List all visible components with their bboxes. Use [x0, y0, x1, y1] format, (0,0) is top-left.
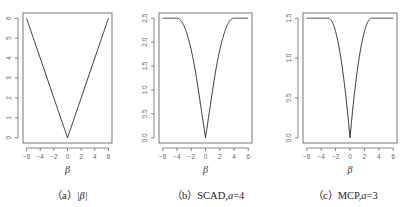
y-tick-label: 2.5	[141, 13, 148, 22]
caption-c-label: （c）MCP,	[313, 190, 361, 201]
x-tick-label: 4	[377, 153, 381, 160]
x-tick-label: 6	[391, 153, 395, 160]
y-tick-label: 1	[5, 116, 12, 120]
y-tick-label: 1.0	[285, 53, 292, 62]
y-tick-label: 2.0	[141, 37, 148, 46]
x-tick-label: 2	[363, 153, 367, 160]
caption-a: （a）|β|	[52, 187, 88, 202]
y-tick-label: 0.5	[285, 93, 292, 102]
x-tick-label: −4	[36, 153, 44, 160]
caption-c: （c）MCP,a=3	[313, 187, 378, 202]
chart-panel-1: −6−4−202460123456β	[5, 13, 112, 175]
x-tick-label: 2	[79, 153, 83, 160]
y-tick-label: 2	[5, 96, 12, 100]
penalty-function-plots: −6−4−202460123456β−6−4−202460.00.51.01.5…	[0, 0, 403, 207]
x-tick-label: −2	[188, 153, 196, 160]
y-tick-label: 0.0	[285, 133, 292, 142]
x-tick-label: 2	[218, 153, 222, 160]
x-tick-label: 4	[232, 153, 236, 160]
y-tick-label: 1.5	[141, 61, 148, 70]
plot-frame	[159, 13, 252, 143]
x-tick-label: 6	[107, 153, 111, 160]
caption-a-math: |β|	[77, 190, 88, 201]
plot-frame	[303, 13, 397, 143]
x-tick-label: −2	[50, 153, 58, 160]
x-axis-label: β	[347, 164, 353, 175]
y-tick-label: 0.5	[141, 109, 148, 118]
y-tick-label: 1.5	[285, 13, 292, 22]
penalty-curve	[307, 18, 393, 138]
caption-c-suffix: =3	[367, 190, 378, 201]
x-tick-label: 4	[93, 153, 97, 160]
x-tick-label: −2	[332, 153, 340, 160]
x-tick-label: −4	[317, 153, 325, 160]
x-tick-label: 0	[66, 153, 70, 160]
chart-panel-3: −6−4−202460.00.51.01.5β	[285, 13, 397, 175]
x-tick-label: −4	[173, 153, 181, 160]
x-tick-label: −6	[159, 153, 167, 160]
y-tick-label: 1.0	[141, 85, 148, 94]
plot-frame	[23, 13, 112, 143]
y-tick-label: 0.0	[141, 133, 148, 142]
caption-b-label: （b）SCAD,	[172, 190, 228, 201]
caption-b-suffix: =4	[233, 190, 244, 201]
y-tick-label: 6	[5, 16, 12, 20]
chart-panel-2: −6−4−202460.00.51.01.52.02.5β	[141, 13, 252, 175]
penalty-curve	[163, 18, 249, 138]
x-tick-label: 0	[204, 153, 208, 160]
y-tick-label: 5	[5, 36, 12, 40]
penalty-curve	[27, 18, 109, 138]
x-axis-label: β	[202, 164, 208, 175]
x-tick-label: 0	[348, 153, 352, 160]
y-tick-label: 4	[5, 56, 12, 60]
y-tick-label: 0	[5, 136, 12, 140]
x-tick-label: −6	[23, 153, 31, 160]
x-tick-label: 6	[246, 153, 250, 160]
y-tick-label: 3	[5, 76, 12, 80]
x-axis-label: β	[64, 164, 70, 175]
caption-b: （b）SCAD,a=4	[172, 187, 244, 202]
x-tick-label: −6	[303, 153, 311, 160]
caption-a-label: （a）	[52, 190, 77, 201]
